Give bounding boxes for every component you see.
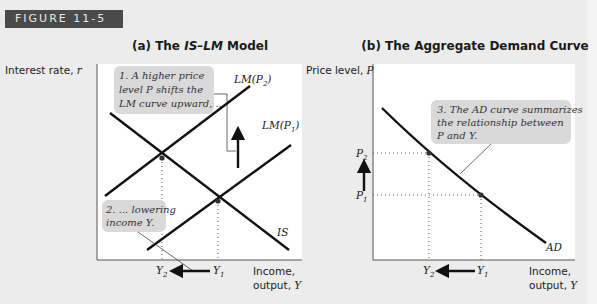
ad-point-p1	[478, 192, 483, 197]
panel-a-tick-y2: Y2	[156, 264, 168, 279]
equilibrium-point-2	[159, 155, 164, 160]
ad-point-p2	[426, 150, 431, 155]
panel-b-x-axis-label-line1: Income,	[529, 265, 571, 277]
panel-a-x-axis-label-line1: Income,	[253, 265, 295, 277]
panel-b-tick-y2: Y2	[423, 264, 435, 279]
panel-b-tick-y1: Y1	[477, 264, 488, 279]
panel-a-title: (a) The IS–LM Model	[132, 39, 268, 53]
figure-canvas: (a) The IS–LM Model Interest rate, r 1. …	[0, 0, 597, 304]
panel-a-tick-y1: Y1	[213, 264, 224, 279]
panel-b-plot-area	[373, 64, 575, 260]
panel-b-tick-p2: P2	[355, 147, 368, 162]
panel-a-x-axis-label-line2: output, Y	[253, 279, 302, 291]
panel-b-y-axis-label: Price level, P	[306, 64, 375, 76]
equilibrium-point-1	[215, 198, 220, 203]
panel-b-title: (b) The Aggregate Demand Curve	[361, 39, 588, 53]
panel-b-tick-p1: P1	[355, 189, 368, 204]
ad-label: AD	[545, 241, 563, 253]
panel-b-x-axis-label-line2: output, Y	[529, 279, 578, 291]
is-label: IS	[276, 226, 288, 238]
panel-a-y-axis-label: Interest rate, r	[5, 64, 83, 76]
